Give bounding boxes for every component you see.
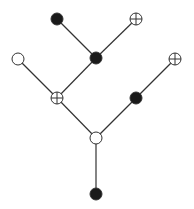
edge-branch-right-mid xyxy=(96,98,136,138)
edge-left-junction-center-junction xyxy=(57,58,96,98)
edge-center-junction-top-left-leaf xyxy=(57,19,96,58)
filled-node-icon xyxy=(90,188,102,200)
crossed-node-icon xyxy=(169,53,181,65)
tree-diagram xyxy=(0,0,194,209)
filled-node-icon xyxy=(51,13,63,25)
crossed-node-icon xyxy=(51,92,63,104)
open-node-icon xyxy=(12,53,24,65)
filled-node-icon xyxy=(130,92,142,104)
filled-node-icon xyxy=(90,52,102,64)
edge-branch-left-junction xyxy=(57,98,96,138)
edge-center-junction-top-right-leaf xyxy=(96,19,136,58)
crossed-node-icon xyxy=(130,13,142,25)
edge-left-junction-left-leaf xyxy=(18,59,57,98)
tree-edges xyxy=(18,19,175,194)
edge-right-mid-right-leaf xyxy=(136,59,175,98)
open-node-icon xyxy=(90,132,102,144)
